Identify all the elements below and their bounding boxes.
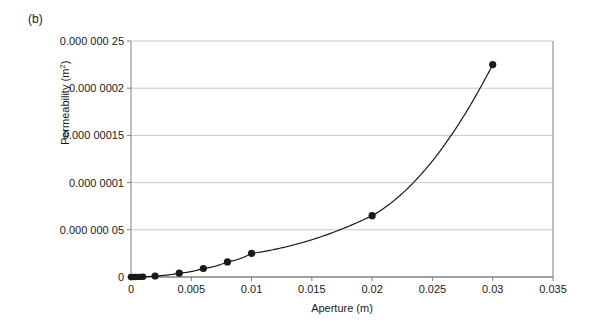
data-point-marker — [224, 258, 231, 265]
data-point-marker — [140, 274, 146, 280]
data-point-marker — [176, 270, 183, 277]
figure-panel-b: (b) Permeability (m2) Aperture (m) 00.00… — [0, 0, 594, 327]
data-point-marker — [489, 61, 496, 68]
y-axis-ticks — [127, 41, 131, 277]
data-point-marker — [200, 265, 207, 272]
data-series-line — [131, 65, 493, 277]
x-axis-ticks — [131, 277, 553, 281]
series-line — [131, 65, 493, 277]
data-point-marker — [248, 250, 255, 257]
axis-frame — [131, 41, 553, 277]
data-series-markers — [128, 61, 497, 280]
grid-lines — [131, 41, 553, 277]
plot-area — [0, 0, 594, 327]
data-point-marker — [369, 212, 376, 219]
data-point-marker — [152, 272, 159, 279]
